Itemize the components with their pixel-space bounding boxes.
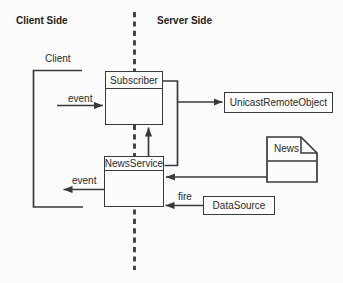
client-bracket-line <box>34 71 84 208</box>
datasource-node-label: DataSource <box>204 200 274 211</box>
fire-label: fire <box>178 191 192 202</box>
event-label-top: event <box>68 93 92 104</box>
client-label: Client <box>45 53 71 64</box>
subscriber-newsservice-connector <box>163 81 178 166</box>
server-side-header: Server Side <box>157 15 212 26</box>
diagram-canvas: Client Side Server Side Client event eve… <box>0 0 343 283</box>
client-side-header: Client Side <box>16 15 68 26</box>
unicastremoteobject-node: UnicastRemoteObject <box>224 92 333 113</box>
event-label-bottom: event <box>72 175 96 186</box>
subscriber-node: Subscriber <box>105 71 163 125</box>
subscriber-node-body <box>106 89 162 124</box>
news-node-label: News <box>274 143 299 154</box>
diagram-artwork <box>0 0 343 283</box>
newsservice-node-body <box>105 171 163 206</box>
datasource-node: DataSource <box>203 196 275 215</box>
newsservice-node: NewsService <box>104 156 164 207</box>
unicastremoteobject-node-label: UnicastRemoteObject <box>225 97 332 108</box>
newsservice-node-label: NewsService <box>105 157 163 171</box>
subscriber-node-label: Subscriber <box>106 72 162 89</box>
